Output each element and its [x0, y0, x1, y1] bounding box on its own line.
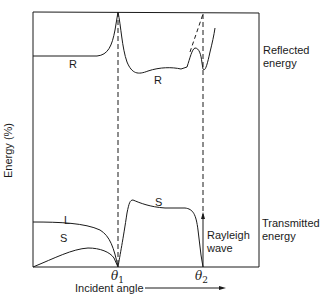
reflected-energy-label-1: Reflected [263, 44, 309, 56]
transmitted-L-curve [33, 222, 118, 267]
transmitted-energy-label-1: Transmitted [262, 217, 320, 229]
x-axis-arrow-head [219, 286, 226, 290]
rayleigh-arrow-head [201, 212, 205, 219]
reflected-energy-label-2: energy [263, 57, 297, 69]
transmitted-S-curve-right [118, 200, 203, 267]
x-axis-label: Incident angle [75, 282, 144, 294]
y-axis-label: Energy (%) [2, 123, 14, 178]
transmitted-energy-label-2: energy [262, 230, 296, 242]
label-R-right: R [154, 74, 162, 86]
label-S-left: S [60, 232, 67, 244]
label-L: L [64, 214, 70, 226]
reflected-dashed-branch [190, 14, 203, 52]
reflected-curve [33, 12, 215, 73]
rayleigh-label-2: wave [207, 242, 233, 254]
rayleigh-label-1: Rayleigh [207, 229, 250, 241]
theta2-label: θ2 [195, 270, 208, 286]
label-R-left: R [69, 58, 77, 70]
transmitted-S-curve-left [33, 248, 118, 267]
label-S-right: S [155, 196, 162, 208]
